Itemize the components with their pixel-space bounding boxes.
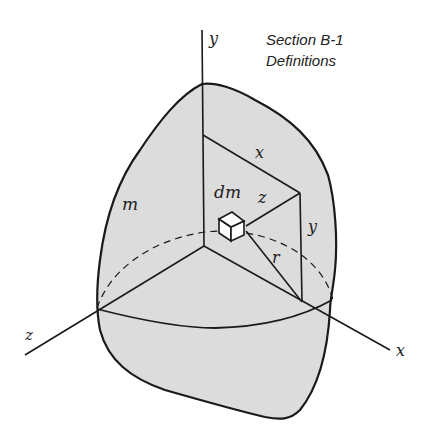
y-distance-label: y (307, 217, 318, 236)
mass-moment-diagram: y x z m dm x z y r Section B-1 Definitio… (0, 0, 433, 442)
x-axis-label: x (396, 341, 405, 360)
mass-label: m (122, 194, 138, 214)
radius-label: r (272, 248, 281, 267)
z-axis-label: z (24, 326, 33, 344)
section-subtitle: Definitions (266, 52, 337, 69)
mass-element-label: dm (214, 182, 241, 202)
section-title: Section B-1 (266, 31, 344, 48)
x-distance-label: x (255, 143, 264, 162)
z-distance-label: z (257, 188, 267, 207)
y-axis-label: y (208, 29, 219, 48)
